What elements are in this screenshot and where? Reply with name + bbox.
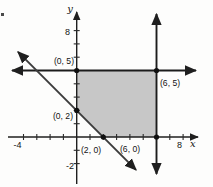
point-6-0	[154, 134, 159, 139]
point-0-2	[74, 108, 79, 113]
x-tick-label-neg4: -4	[13, 140, 21, 150]
point-2-0	[101, 134, 106, 139]
graph-figure: (0, 5) (6, 5) (0, 2) (2, 0) (6, 0) 8 -2 …	[0, 0, 213, 187]
feasible-region	[77, 71, 157, 138]
y-tick-label-8: 8	[65, 27, 70, 37]
label-point-0-5: (0, 5)	[54, 56, 74, 66]
label-point-0-2: (0, 2)	[53, 111, 73, 121]
x-tick-label-8: 8	[177, 140, 182, 150]
label-point-6-5: (6, 5)	[160, 78, 180, 88]
point-6-5	[154, 68, 159, 73]
coordinate-plane: (0, 5) (6, 5) (0, 2) (2, 0) (6, 0) 8 -2 …	[0, 0, 213, 187]
label-point-6-0: (6, 0)	[120, 144, 140, 154]
y-axis-label: y	[66, 3, 73, 14]
point-0-5	[74, 68, 79, 73]
label-point-2-0: (2, 0)	[81, 145, 101, 155]
cropped-bullet-dot	[1, 13, 4, 16]
y-tick-label-neg2: -2	[66, 161, 74, 171]
x-axis-label: x	[190, 138, 196, 149]
